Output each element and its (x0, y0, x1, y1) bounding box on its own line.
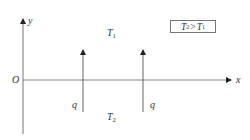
region-upper-label: T1 (107, 28, 116, 40)
legend-left-subscript: 2 (186, 24, 189, 30)
charge-label-right: q (150, 100, 155, 110)
y-axis-label: y (28, 16, 32, 26)
region-lower-label: T2 (107, 112, 116, 124)
diagram-canvas: y x O T1 T2 q q T2>T1 (0, 0, 250, 140)
origin-label: O (12, 75, 19, 85)
charge-label-left: q (72, 100, 77, 110)
temperature-relation-text: T2>T1 (171, 21, 215, 32)
legend-right-subscript: 1 (202, 24, 205, 30)
region-upper-subscript: 1 (113, 32, 116, 39)
legend-relation: > (190, 22, 195, 32)
temperature-relation-box: T2>T1 (170, 20, 216, 33)
x-axis-label: x (236, 75, 240, 85)
region-lower-subscript: 2 (113, 116, 116, 123)
